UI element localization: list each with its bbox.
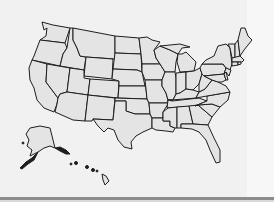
bottom-edge xyxy=(0,200,274,202)
state-new-mexico[interactable] xyxy=(85,95,115,121)
us-states-map xyxy=(0,0,274,202)
state-maine[interactable] xyxy=(238,28,252,56)
state-montana[interactable] xyxy=(73,28,115,59)
state-wyoming[interactable] xyxy=(84,57,113,79)
alaska-panhandle xyxy=(55,147,70,154)
state-florida[interactable] xyxy=(181,124,220,163)
us-map-frame xyxy=(0,0,274,202)
state-hawaii[interactable] xyxy=(102,174,109,185)
hawaii-island-3 xyxy=(86,166,89,169)
state-arizona[interactable] xyxy=(55,92,88,121)
state-north-dakota[interactable] xyxy=(115,36,141,54)
alaska-aleutians xyxy=(20,152,38,169)
state-michigan[interactable] xyxy=(177,52,196,72)
hawaii-island-1 xyxy=(70,163,72,165)
hawaii-island-2 xyxy=(75,162,78,165)
state-connecticut[interactable] xyxy=(232,62,238,66)
alaska-island xyxy=(22,142,24,144)
state-washington[interactable] xyxy=(40,22,70,43)
state-alaska[interactable] xyxy=(26,126,55,156)
state-kansas[interactable] xyxy=(118,86,147,99)
state-rhode-island[interactable] xyxy=(238,62,241,65)
hawaii-island-5 xyxy=(96,170,98,172)
hawaii-island-4 xyxy=(92,169,95,172)
